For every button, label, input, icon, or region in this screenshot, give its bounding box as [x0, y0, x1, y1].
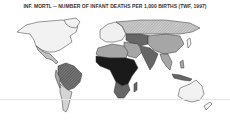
region-southeast-asia [160, 54, 172, 70]
region-philippines [180, 60, 184, 68]
region-madagascar [134, 82, 137, 92]
world-map [0, 0, 230, 137]
region-indonesia [172, 74, 192, 81]
region-russia [116, 20, 200, 34]
scan-line [0, 99, 230, 100]
region-sub-saharan-africa [96, 56, 138, 86]
region-japan [187, 38, 191, 48]
region-north-africa [96, 44, 128, 58]
region-new-zealand [204, 102, 212, 110]
